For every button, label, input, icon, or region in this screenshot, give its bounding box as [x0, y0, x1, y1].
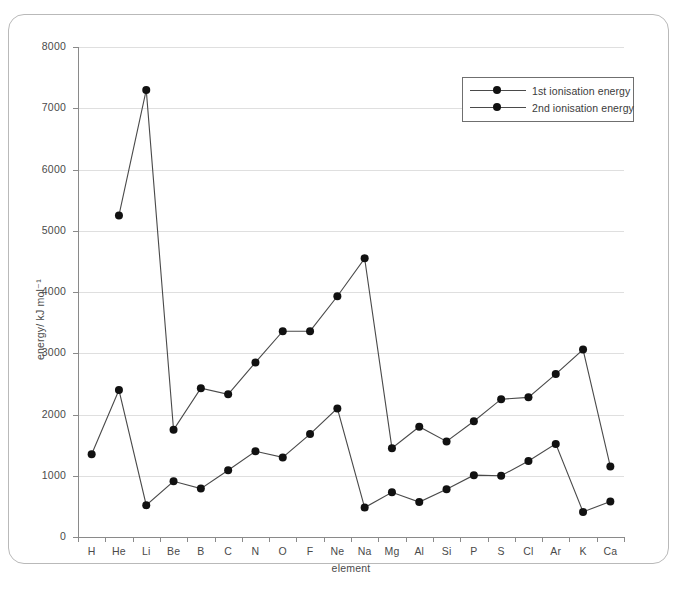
- x-tick-label: Ca: [593, 545, 627, 557]
- y-tick-mark: [73, 47, 79, 48]
- y-tick-label: 2000: [20, 408, 66, 420]
- x-tick-mark: [433, 537, 434, 542]
- x-tick-mark: [624, 537, 625, 542]
- x-tick-mark: [133, 537, 134, 542]
- x-tick-mark: [542, 537, 543, 542]
- figure-root: 010002000300040005000600070008000 HHeLiB…: [0, 0, 683, 600]
- y-tick-label: 8000: [20, 40, 66, 52]
- grid-line: [78, 415, 624, 416]
- legend: 1st ionisation energy 2nd ionisation ene…: [462, 77, 634, 122]
- y-tick-label: 0: [20, 530, 66, 542]
- y-tick-label: 7000: [20, 101, 66, 113]
- x-tick-mark: [515, 537, 516, 542]
- x-axis-title: element: [78, 562, 624, 574]
- y-tick-label: 5000: [20, 224, 66, 236]
- x-tick-mark: [269, 537, 270, 542]
- x-tick-mark: [187, 537, 188, 542]
- grid-line: [78, 170, 624, 171]
- x-tick-mark: [78, 537, 79, 542]
- y-tick-mark: [73, 476, 79, 477]
- x-tick-mark: [378, 537, 379, 542]
- x-tick-mark: [215, 537, 216, 542]
- y-tick-mark: [73, 231, 79, 232]
- legend-marker-icon: [470, 85, 526, 97]
- y-tick-mark: [73, 353, 79, 354]
- legend-item-2nd-ionisation-energy[interactable]: 2nd ionisation energy: [470, 99, 626, 116]
- x-tick-mark: [324, 537, 325, 542]
- legend-label: 2nd ionisation energy: [526, 102, 634, 114]
- y-tick-label: 1000: [20, 469, 66, 481]
- legend-label: 1st ionisation energy: [526, 85, 630, 97]
- y-axis-title: energy/ kJ mol⁻¹: [34, 279, 46, 360]
- x-tick-mark: [597, 537, 598, 542]
- x-tick-mark: [160, 537, 161, 542]
- x-tick-mark: [406, 537, 407, 542]
- y-tick-mark: [73, 108, 79, 109]
- y-tick-mark: [73, 415, 79, 416]
- x-tick-mark: [105, 537, 106, 542]
- x-tick-mark: [488, 537, 489, 542]
- y-tick-mark: [73, 292, 79, 293]
- grid-line: [78, 47, 624, 48]
- y-tick-label: 6000: [20, 163, 66, 175]
- grid-line: [78, 292, 624, 293]
- grid-line: [78, 353, 624, 354]
- x-tick-mark: [460, 537, 461, 542]
- legend-item-1st-ionisation-energy[interactable]: 1st ionisation energy: [470, 82, 626, 99]
- x-tick-mark: [242, 537, 243, 542]
- x-tick-mark: [296, 537, 297, 542]
- grid-line: [78, 231, 624, 232]
- legend-marker-icon: [470, 102, 526, 114]
- x-tick-mark: [569, 537, 570, 542]
- y-tick-mark: [73, 170, 79, 171]
- grid-line: [78, 476, 624, 477]
- x-tick-mark: [351, 537, 352, 542]
